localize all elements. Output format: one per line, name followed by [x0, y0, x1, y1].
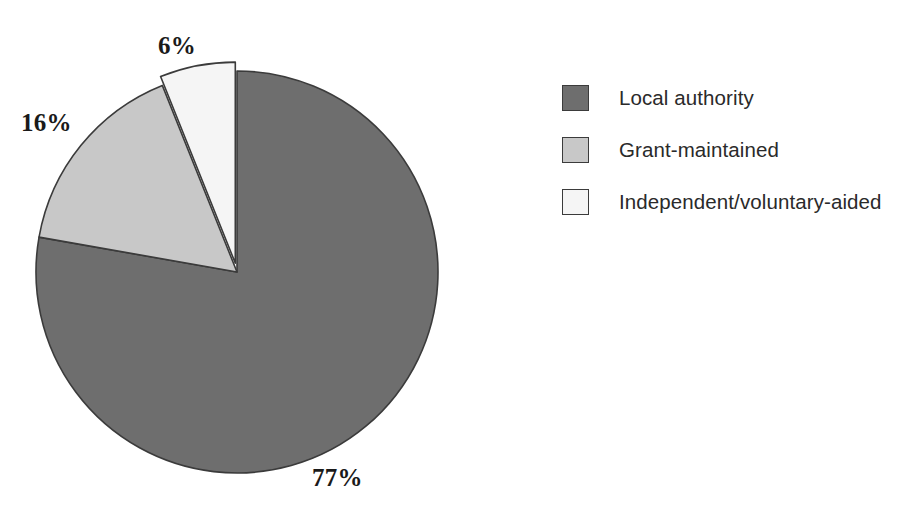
legend-item-independent-voluntary-aided: Independent/voluntary-aided — [562, 176, 922, 228]
slice-value-label-local-authority: 77% — [312, 465, 363, 490]
slice-value-label-independent: 6% — [158, 33, 196, 58]
slice-value-label-grant-maintained: 16% — [21, 110, 72, 135]
pie-slices-group — [36, 62, 438, 473]
legend-label-grant-maintained: Grant-maintained — [619, 138, 779, 162]
chart-legend: Local authority Grant-maintained Indepen… — [562, 72, 922, 228]
legend-item-grant-maintained: Grant-maintained — [562, 124, 922, 176]
legend-swatch-independent-voluntary-aided — [562, 189, 589, 215]
pie-chart-plot-area: 6% 16% 77% — [0, 0, 500, 516]
pie-chart-svg — [0, 0, 500, 516]
legend-label-independent-voluntary-aided: Independent/voluntary-aided — [619, 190, 882, 214]
legend-label-local-authority: Local authority — [619, 86, 754, 110]
legend-swatch-local-authority — [562, 85, 589, 111]
pie-chart-figure: 6% 16% 77% Local authority Grant-maintai… — [0, 0, 924, 516]
legend-item-local-authority: Local authority — [562, 72, 922, 124]
legend-swatch-grant-maintained — [562, 137, 589, 163]
